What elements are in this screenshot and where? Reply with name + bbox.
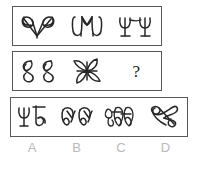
psi-plus-curl-glyph bbox=[14, 102, 52, 132]
abstract-reasoning-puzzle: ? bbox=[0, 0, 200, 170]
sequence-cell-2-2 bbox=[62, 52, 111, 90]
option-label-a: A bbox=[10, 140, 55, 155]
question-mark: ? bbox=[133, 63, 141, 80]
answer-option-d[interactable] bbox=[143, 98, 187, 136]
option-label-c: C bbox=[99, 140, 144, 155]
answer-option-c[interactable] bbox=[99, 98, 143, 136]
sequence-cell-2-1 bbox=[13, 52, 62, 90]
double-looped-crown-glyph bbox=[58, 102, 96, 132]
option-label-b: B bbox=[55, 140, 100, 155]
answer-options-row bbox=[10, 97, 188, 137]
answer-option-a[interactable] bbox=[11, 98, 55, 136]
answer-option-b[interactable] bbox=[55, 98, 99, 136]
sequence-row-1 bbox=[12, 6, 162, 46]
four-petal-pinwheel-glyph bbox=[68, 56, 106, 86]
double-figure-eight-glyph bbox=[18, 56, 58, 86]
option-labels: A B C D bbox=[10, 140, 188, 155]
triple-scribble-loop-glyph bbox=[102, 102, 140, 132]
sequence-row-2: ? bbox=[12, 51, 162, 91]
crossed-double-loop-glyph bbox=[146, 102, 184, 132]
option-label-d: D bbox=[144, 140, 189, 155]
sequence-cell-1-2 bbox=[62, 7, 111, 45]
double-psi-goblet-glyph bbox=[116, 11, 156, 41]
rounded-m-crown-glyph bbox=[69, 11, 105, 41]
sequence-cell-1-1 bbox=[13, 7, 62, 45]
sequence-cell-1-3 bbox=[112, 7, 161, 45]
sequence-cell-2-3: ? bbox=[112, 52, 161, 90]
double-bowtie-v-glyph bbox=[19, 11, 57, 41]
